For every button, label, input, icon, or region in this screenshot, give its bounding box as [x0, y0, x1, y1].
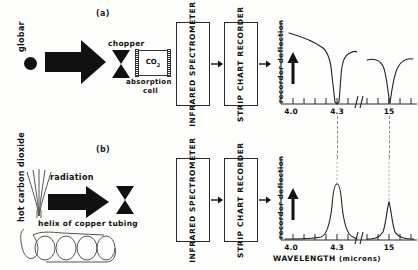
connector-arrow-b1	[211, 195, 223, 205]
deflection-arrow-icon-a	[288, 52, 299, 84]
globar-source-icon	[24, 57, 37, 70]
instrument-infrared-spectrometer-b: INFRARED SPECTROMETER	[176, 158, 210, 242]
x-axis-units: (microns)	[339, 255, 381, 263]
deflection-arrow-icon-b	[288, 188, 299, 220]
cell-caption-line1: absorption	[126, 79, 172, 86]
copper-tubing-helix-icon	[18, 229, 126, 267]
xtick-label-b-2: 4.3	[323, 243, 351, 252]
helix-label: helix of copper tubing	[38, 220, 138, 228]
dashed-connector-4-3	[337, 116, 338, 158]
axis-break-icon-a	[355, 96, 363, 108]
beam-arrow-icon-a	[45, 38, 107, 86]
instrument-infrared-spectrometer-a: INFRARED SPECTROMETER	[176, 22, 210, 106]
panel-label-b: (b)	[96, 146, 110, 154]
xtick-label-a-2: 4.3	[323, 107, 351, 116]
instrument-strip-chart-recorder-b: STRIP CHART RECORDER	[224, 158, 258, 242]
absorption-cell: CO2	[136, 50, 170, 76]
connector-arrow-b2	[259, 195, 271, 205]
xtick-label-b-3: 15	[375, 243, 403, 252]
chart-emission-b	[271, 154, 418, 252]
dashed-connector-15	[389, 116, 390, 158]
instrument-label: INFRARED SPECTROMETER	[188, 1, 197, 127]
chopper-icon-b	[115, 185, 135, 215]
cell-caption-line2: cell	[143, 88, 158, 95]
instrument-label: STRIP CHART RECORDER	[236, 6, 245, 122]
instrument-label: STRIP CHART RECORDER	[236, 142, 245, 258]
chart-absorption-a	[271, 18, 418, 116]
beam-label-radiation: radiation	[50, 174, 94, 182]
connector-arrow-a2	[259, 59, 271, 69]
x-axis-title-text: WAVELENGTH	[273, 254, 336, 263]
connector-arrow-a1	[211, 59, 223, 69]
figure-root: (a) globar chopper CO2 absorption cell I…	[0, 0, 418, 270]
chopper-icon-a	[111, 49, 131, 79]
instrument-strip-chart-recorder-a: STRIP CHART RECORDER	[224, 22, 258, 106]
xtick-label-b-1: 4.0	[277, 243, 305, 252]
xtick-label-a-1: 4.0	[277, 107, 305, 116]
xtick-label-a-3: 15	[375, 107, 403, 116]
chopper-label-a: chopper	[108, 40, 145, 48]
x-axis-title: WAVELENGTH (microns)	[273, 254, 381, 263]
instrument-label: INFRARED SPECTROMETER	[188, 137, 197, 263]
panel-label-a: (a)	[96, 10, 110, 18]
cell-gas-label: CO2	[137, 58, 169, 67]
beam-arrow-icon-b	[48, 185, 110, 219]
source-label-globar: globar	[18, 21, 26, 52]
axis-break-icon-b	[355, 232, 363, 244]
